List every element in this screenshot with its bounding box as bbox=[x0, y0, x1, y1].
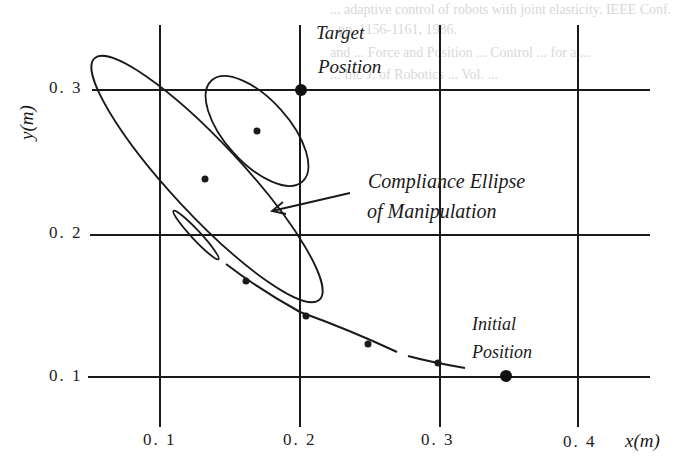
initial-position-marker bbox=[500, 370, 512, 382]
y-tick-0.1: 0. 1 bbox=[49, 366, 83, 386]
compliance-label-line1: Compliance Ellipse bbox=[368, 170, 525, 193]
trajectory-marker bbox=[365, 341, 372, 348]
x-tick-0.4: 0. 4 bbox=[563, 432, 597, 452]
y-axis-label: y(m) bbox=[16, 105, 38, 140]
target-label-line1: Target bbox=[316, 22, 364, 44]
trajectory-marker bbox=[435, 360, 442, 367]
x-tick-0.2: 0. 2 bbox=[283, 430, 317, 450]
trajectory-marker bbox=[303, 313, 310, 320]
initial-label-line1: Initial bbox=[472, 314, 516, 335]
ellipse-center-dot bbox=[202, 176, 209, 183]
compliance-label-line2: of Manipulation bbox=[367, 200, 496, 223]
compliance-arrow bbox=[272, 193, 350, 214]
x-tick-0.1: 0. 1 bbox=[143, 430, 177, 450]
trajectory-path-segment bbox=[226, 264, 397, 352]
trajectory bbox=[226, 264, 465, 368]
arrow-shaft bbox=[272, 193, 350, 211]
trajectory-markers bbox=[243, 278, 442, 367]
x-tick-0.3: 0. 3 bbox=[421, 430, 455, 450]
y-tick-0.2: 0. 2 bbox=[49, 223, 83, 243]
ellipse-center-dot bbox=[254, 128, 261, 135]
target-label-line2: Position bbox=[318, 56, 381, 78]
x-axis-label: x(m) bbox=[625, 430, 660, 452]
initial-label-line2: Position bbox=[472, 342, 532, 363]
trajectory-marker bbox=[243, 278, 250, 285]
y-tick-0.3: 0. 3 bbox=[49, 78, 83, 98]
compliance-ellipse-figure: ... adaptive control of robots with join… bbox=[0, 0, 692, 468]
grid bbox=[88, 25, 650, 427]
target-position-marker bbox=[295, 84, 307, 96]
